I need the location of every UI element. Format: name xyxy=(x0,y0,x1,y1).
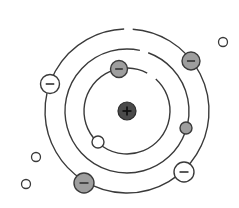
background xyxy=(0,0,239,208)
electron-inner-bottom-left xyxy=(92,136,104,148)
electron-outer-left xyxy=(41,75,60,94)
electron-outer-bottom-right xyxy=(174,162,194,182)
electron-middle-right xyxy=(180,122,192,134)
free-particle-left-upper xyxy=(32,153,41,162)
electron-outer-bottom-left xyxy=(74,173,94,193)
nucleus xyxy=(118,102,136,120)
electron-inner-top xyxy=(111,61,128,78)
electron-circle xyxy=(180,122,192,134)
electron-circle xyxy=(92,136,104,148)
free-particle-left-lower xyxy=(22,180,31,189)
free-particle-top-right xyxy=(219,38,228,47)
atom-diagram xyxy=(0,0,239,208)
electron-outer-top-right xyxy=(182,52,200,70)
